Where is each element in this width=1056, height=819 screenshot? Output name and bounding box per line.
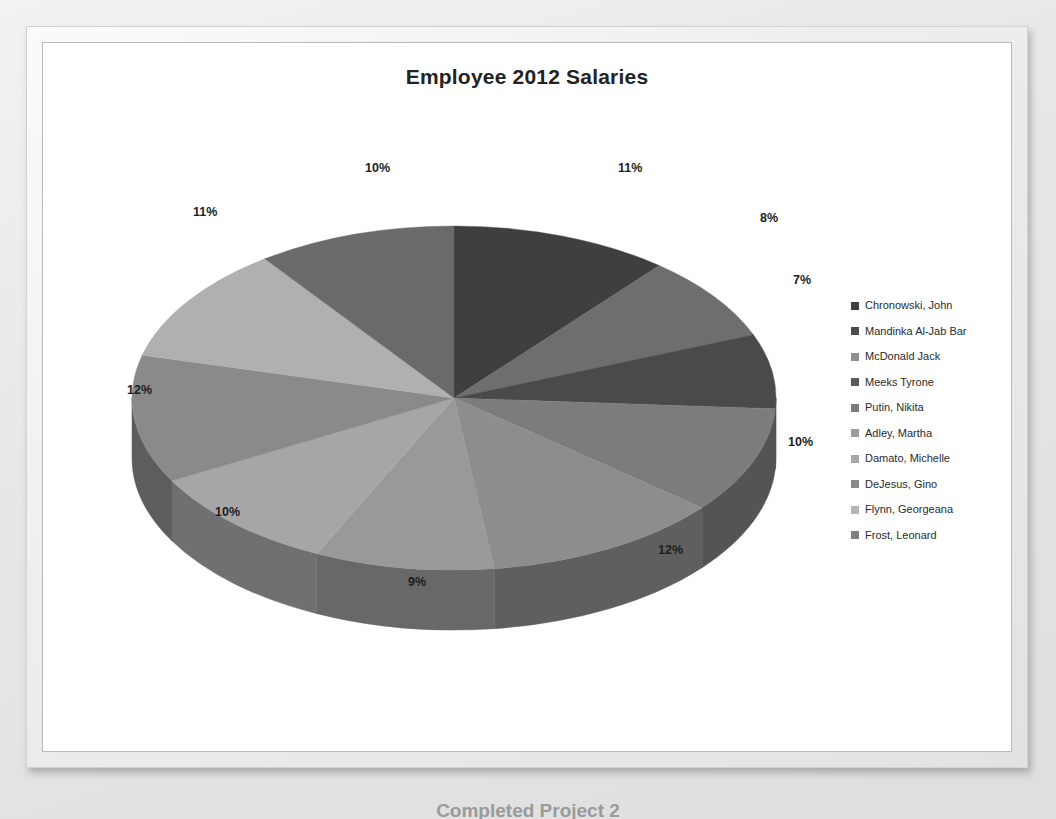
pie-percent-label: 11% [618,161,642,175]
legend-swatch-icon [851,302,859,310]
legend-item[interactable]: Adley, Martha [851,421,1012,447]
legend-item[interactable]: Chronowski, John [851,293,1012,319]
legend-swatch-icon [851,429,859,437]
legend-swatch-icon [851,506,859,514]
legend-swatch-icon [851,480,859,488]
pie-percent-label: 7% [793,273,811,287]
legend-item-label: Chronowski, John [865,300,952,311]
legend-item-label: Putin, Nikita [865,402,924,413]
pie-percent-label: 12% [658,543,683,557]
pie-chart-svg [83,153,823,673]
legend-swatch-icon [851,353,859,361]
legend-swatch-icon [851,531,859,539]
legend-item[interactable]: Meeks Tyrone [851,370,1012,396]
legend-item[interactable]: Frost, Leonard [851,523,1012,549]
legend-swatch-icon [851,455,859,463]
chart-legend: Chronowski, JohnMandinka Al-Jab BarMcDon… [851,293,1012,548]
legend-item[interactable]: Mandinka Al-Jab Bar [851,319,1012,345]
pie-percent-label: 10% [215,505,240,519]
legend-item[interactable]: McDonald Jack [851,344,1012,370]
legend-item-label: McDonald Jack [865,351,940,362]
pie-percent-label: 9% [408,575,426,589]
pie-chart: 11%8%7%10%12%9%10%12%11%10% [83,153,823,673]
legend-item-label: Flynn, Georgeana [865,504,953,515]
legend-item[interactable]: Damato, Michelle [851,446,1012,472]
legend-item[interactable]: DeJesus, Gino [851,472,1012,498]
legend-swatch-icon [851,327,859,335]
legend-item-label: Adley, Martha [865,428,932,439]
chart-title: Employee 2012 Salaries [43,65,1011,89]
slide-frame: Employee 2012 Salaries 11%8%7%10%12%9%10… [26,26,1028,768]
pie-percent-label: 12% [127,383,152,397]
legend-swatch-icon [851,378,859,386]
pie-percent-label: 10% [788,435,813,449]
legend-item[interactable]: Flynn, Georgeana [851,497,1012,523]
legend-swatch-icon [851,404,859,412]
pie-percent-label: 11% [193,205,217,219]
slide-canvas: Employee 2012 Salaries 11%8%7%10%12%9%10… [42,42,1012,752]
legend-item-label: Meeks Tyrone [865,377,934,388]
pie-percent-label: 8% [760,211,778,225]
legend-item-label: Mandinka Al-Jab Bar [865,326,967,337]
legend-item-label: Frost, Leonard [865,530,937,541]
legend-item-label: Damato, Michelle [865,453,950,464]
legend-item-label: DeJesus, Gino [865,479,937,490]
slide-caption: Completed Project 2 [0,800,1056,819]
pie-percent-label: 10% [365,161,390,175]
legend-item[interactable]: Putin, Nikita [851,395,1012,421]
